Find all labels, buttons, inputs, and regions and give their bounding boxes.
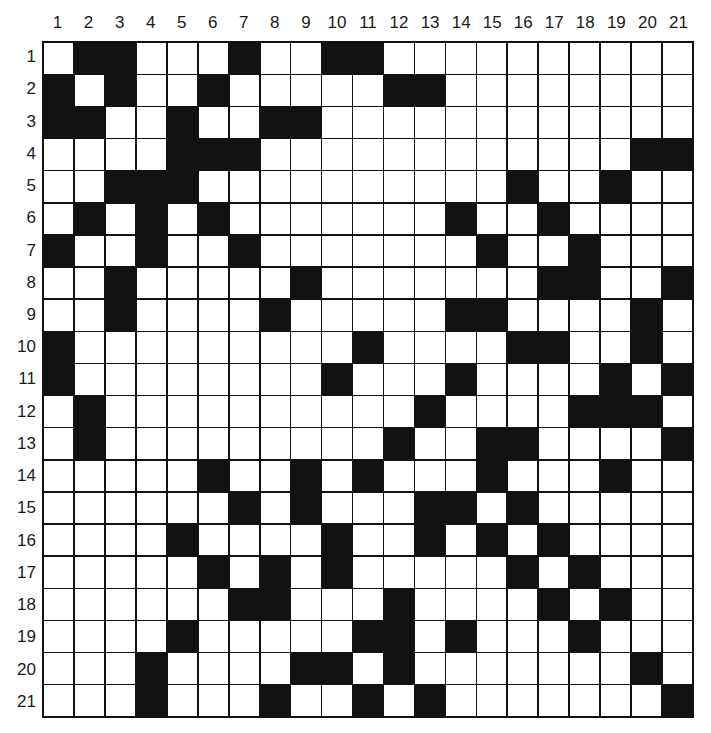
- black-cell[interactable]: [261, 685, 290, 716]
- white-cell[interactable]: [199, 621, 228, 652]
- black-cell[interactable]: [632, 332, 661, 363]
- white-cell[interactable]: [75, 171, 104, 202]
- white-cell[interactable]: [322, 589, 351, 620]
- black-cell[interactable]: [477, 300, 506, 331]
- white-cell[interactable]: [230, 525, 259, 556]
- black-cell[interactable]: [632, 139, 661, 170]
- black-cell[interactable]: [663, 685, 692, 716]
- white-cell[interactable]: [632, 364, 661, 395]
- white-cell[interactable]: [168, 332, 197, 363]
- black-cell[interactable]: [601, 364, 630, 395]
- white-cell[interactable]: [663, 396, 692, 427]
- white-cell[interactable]: [199, 268, 228, 299]
- black-cell[interactable]: [508, 332, 537, 363]
- white-cell[interactable]: [570, 685, 599, 716]
- white-cell[interactable]: [106, 653, 135, 684]
- white-cell[interactable]: [415, 300, 444, 331]
- white-cell[interactable]: [663, 43, 692, 74]
- black-cell[interactable]: [137, 653, 166, 684]
- white-cell[interactable]: [168, 75, 197, 106]
- white-cell[interactable]: [168, 428, 197, 459]
- white-cell[interactable]: [632, 43, 661, 74]
- white-cell[interactable]: [291, 589, 320, 620]
- white-cell[interactable]: [75, 621, 104, 652]
- black-cell[interactable]: [353, 332, 382, 363]
- black-cell[interactable]: [477, 461, 506, 492]
- black-cell[interactable]: [601, 171, 630, 202]
- black-cell[interactable]: [384, 428, 413, 459]
- black-cell[interactable]: [508, 493, 537, 524]
- white-cell[interactable]: [137, 428, 166, 459]
- black-cell[interactable]: [230, 43, 259, 74]
- white-cell[interactable]: [199, 43, 228, 74]
- white-cell[interactable]: [663, 107, 692, 138]
- black-cell[interactable]: [230, 589, 259, 620]
- white-cell[interactable]: [446, 107, 475, 138]
- white-cell[interactable]: [570, 653, 599, 684]
- black-cell[interactable]: [601, 461, 630, 492]
- white-cell[interactable]: [230, 107, 259, 138]
- black-cell[interactable]: [230, 139, 259, 170]
- white-cell[interactable]: [601, 43, 630, 74]
- black-cell[interactable]: [261, 107, 290, 138]
- white-cell[interactable]: [570, 493, 599, 524]
- black-cell[interactable]: [168, 139, 197, 170]
- white-cell[interactable]: [261, 428, 290, 459]
- white-cell[interactable]: [384, 300, 413, 331]
- white-cell[interactable]: [415, 557, 444, 588]
- white-cell[interactable]: [384, 171, 413, 202]
- white-cell[interactable]: [446, 396, 475, 427]
- white-cell[interactable]: [261, 268, 290, 299]
- white-cell[interactable]: [446, 75, 475, 106]
- black-cell[interactable]: [168, 525, 197, 556]
- white-cell[interactable]: [632, 171, 661, 202]
- white-cell[interactable]: [353, 589, 382, 620]
- white-cell[interactable]: [199, 653, 228, 684]
- white-cell[interactable]: [106, 364, 135, 395]
- white-cell[interactable]: [291, 43, 320, 74]
- white-cell[interactable]: [106, 428, 135, 459]
- white-cell[interactable]: [446, 589, 475, 620]
- white-cell[interactable]: [230, 75, 259, 106]
- black-cell[interactable]: [508, 428, 537, 459]
- black-cell[interactable]: [570, 396, 599, 427]
- white-cell[interactable]: [44, 204, 73, 235]
- black-cell[interactable]: [477, 525, 506, 556]
- white-cell[interactable]: [291, 685, 320, 716]
- white-cell[interactable]: [199, 428, 228, 459]
- white-cell[interactable]: [570, 589, 599, 620]
- white-cell[interactable]: [384, 364, 413, 395]
- white-cell[interactable]: [322, 621, 351, 652]
- black-cell[interactable]: [44, 236, 73, 267]
- white-cell[interactable]: [322, 107, 351, 138]
- black-cell[interactable]: [415, 525, 444, 556]
- white-cell[interactable]: [601, 685, 630, 716]
- white-cell[interactable]: [353, 268, 382, 299]
- white-cell[interactable]: [477, 107, 506, 138]
- white-cell[interactable]: [168, 364, 197, 395]
- white-cell[interactable]: [508, 300, 537, 331]
- black-cell[interactable]: [106, 300, 135, 331]
- white-cell[interactable]: [353, 525, 382, 556]
- white-cell[interactable]: [137, 332, 166, 363]
- white-cell[interactable]: [75, 461, 104, 492]
- white-cell[interactable]: [663, 589, 692, 620]
- white-cell[interactable]: [106, 557, 135, 588]
- white-cell[interactable]: [415, 621, 444, 652]
- white-cell[interactable]: [508, 685, 537, 716]
- white-cell[interactable]: [291, 171, 320, 202]
- white-cell[interactable]: [632, 428, 661, 459]
- white-cell[interactable]: [508, 589, 537, 620]
- white-cell[interactable]: [137, 139, 166, 170]
- black-cell[interactable]: [168, 171, 197, 202]
- white-cell[interactable]: [261, 332, 290, 363]
- white-cell[interactable]: [446, 268, 475, 299]
- white-cell[interactable]: [570, 43, 599, 74]
- black-cell[interactable]: [322, 653, 351, 684]
- white-cell[interactable]: [601, 236, 630, 267]
- white-cell[interactable]: [632, 589, 661, 620]
- white-cell[interactable]: [44, 621, 73, 652]
- white-cell[interactable]: [384, 525, 413, 556]
- black-cell[interactable]: [44, 107, 73, 138]
- white-cell[interactable]: [261, 461, 290, 492]
